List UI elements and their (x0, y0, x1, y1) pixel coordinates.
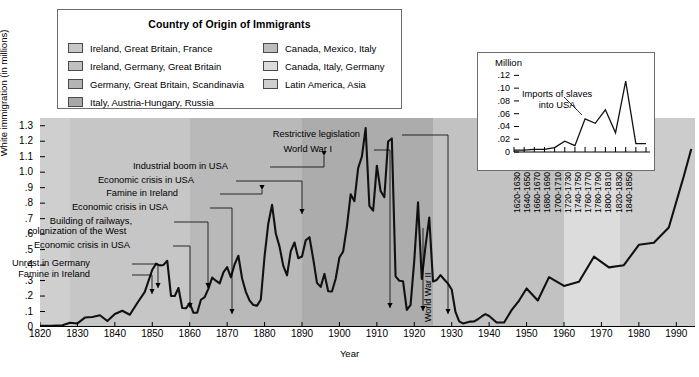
x-axis-tick-label: 1890 (291, 329, 313, 339)
inset-x-axis-tick-label: 1740-1750 (573, 172, 583, 213)
annotation-restrictive-legislation: Restrictive legislation (236, 129, 360, 140)
inset-x-axis-tick-label: 1720-1730 (563, 172, 573, 213)
x-axis-tick-label: 1920 (403, 329, 425, 339)
x-axis-tick-label: 1960 (553, 329, 575, 339)
y-axis-tick-label: .1 (25, 307, 33, 317)
legend-item-label: Ireland, Great Britain, France (90, 43, 213, 54)
annotation-leader-line (220, 190, 262, 194)
x-axis-tick-label: 1850 (141, 329, 163, 339)
x-axis-tick-label: 1970 (590, 329, 612, 339)
x-axis-tick-label: 1830 (66, 329, 88, 339)
x-axis-tick-label: 1950 (515, 329, 537, 339)
x-axis-tick-label: 1990 (665, 329, 687, 339)
y-axis-tick-label: .2 (25, 291, 33, 301)
legend-item-label: Canada, Mexico, Italy (285, 43, 376, 54)
annotation-economic-crisis-usa-2: Economic crisis in USA (28, 202, 168, 213)
x-axis-tick-label: 1940 (478, 329, 500, 339)
annotation-economic-crisis-usa-3: Economic crisis in USA (52, 175, 194, 186)
inset-x-axis-tick-label: 1620-1630 (512, 172, 522, 213)
legend-item: Latin America, Asia (263, 75, 398, 93)
slave-imports-line (514, 81, 646, 150)
x-axis-tick-label: 1840 (104, 329, 126, 339)
y-axis-tick-label: 1.3 (19, 121, 33, 131)
annotation-famine-in-ireland-1: Famine in Ireland (0, 269, 90, 280)
x-axis-tick-label: 1870 (216, 329, 238, 339)
annotation-arrow (149, 289, 154, 294)
legend-swatch (263, 79, 278, 89)
annotation-world-war-ii: World War II (423, 272, 433, 322)
legend-item-label: Ireland, Germany, Great Britain (90, 61, 221, 72)
x-axis-tick-label: 1900 (328, 329, 350, 339)
legend-item-label: Germany, Great Britain, Scandinavia (90, 79, 244, 90)
annotation-arrow (155, 283, 160, 288)
legend-item-label: Canada, Italy, Germany (285, 61, 385, 72)
annotation-building-of-railways: Building of railways, (20, 216, 132, 227)
inset-x-axis-tick-label: 1700-1710 (553, 172, 563, 213)
x-axis-tick-label: 1910 (366, 329, 388, 339)
legend-swatch (263, 43, 278, 53)
y-axis-tick-label: 1.2 (19, 136, 33, 146)
annotation-leader-line (236, 181, 302, 214)
legend-box: Country of Origin of Immigrants Ireland,… (57, 9, 402, 109)
legend-item-label: Latin America, Asia (285, 79, 366, 90)
annotation-arrow (299, 209, 304, 214)
inset-chart-slave-imports: Million Imports of slaves into USA 0.02.… (477, 52, 655, 171)
annotation-unrest-in-germany: Unrest in Germany (0, 258, 90, 269)
legend-item: Canada, Mexico, Italy (263, 39, 398, 57)
legend-swatch (68, 79, 83, 89)
x-axis-ticks: 1820183018401850186018701880189019001910… (40, 329, 695, 345)
legend-column-right: Canada, Mexico, ItalyCanada, Italy, Germ… (263, 39, 398, 93)
annotation-arrow (259, 185, 264, 190)
legend-swatch (68, 61, 83, 71)
x-axis-tick-label: 1860 (179, 329, 201, 339)
y-axis-tick-label: .9 (25, 183, 33, 193)
x-axis-tick-label: 1930 (441, 329, 463, 339)
legend-item: Italy, Austria-Hungary, Russia (68, 93, 268, 111)
annotation-arrow (387, 303, 392, 308)
inset-annotation-leader-line (564, 97, 582, 115)
inset-x-axis-tick-label: 1820-1830 (614, 172, 624, 213)
x-axis-tick-label: 1980 (628, 329, 650, 339)
annotation-industrial-boom-usa: Industrial boom in USA (88, 161, 228, 172)
annotation-world-war-i: World War I (256, 144, 332, 155)
legend-swatch (68, 97, 83, 107)
legend-title: Country of Origin of Immigrants (58, 18, 401, 30)
x-axis-tick-label: 1820 (29, 329, 51, 339)
inset-x-axis-tick-label: 1800-1810 (603, 172, 613, 213)
legend-item: Canada, Italy, Germany (263, 57, 398, 75)
annotation-leader-line (174, 222, 208, 288)
inset-line-series (478, 53, 654, 170)
y-axis-tick-label: 1.0 (19, 167, 33, 177)
annotation-economic-crisis-usa-1: Economic crisis in USA (0, 240, 130, 251)
inset-x-axis-tick-label: 1680-1690 (542, 172, 552, 213)
inset-x-axis-tick-label: 1660-1670 (532, 172, 542, 213)
annotation-leader-line (210, 208, 232, 314)
legend-swatch (68, 43, 83, 53)
annotation-arrow (445, 309, 450, 314)
annotation-famine-in-ireland-2: Famine in Ireland (82, 188, 178, 199)
inset-x-axis-tick-label: 1640-1650 (522, 172, 532, 213)
annotation-colonization-of-the-west: colonization of the West (18, 226, 136, 237)
legend-item: Ireland, Great Britain, France (68, 39, 268, 57)
annotation-arrow (229, 309, 234, 314)
legend-item-label: Italy, Austria-Hungary, Russia (90, 97, 214, 108)
inset-x-axis-tick-label: 1780-1790 (593, 172, 603, 213)
y-axis-tick-label: 1.1 (19, 152, 33, 162)
x-axis-tick-label: 1880 (253, 329, 275, 339)
inset-x-axis-labels: 1620-16301640-16501660-16701680-16901700… (477, 172, 655, 220)
x-axis-title: Year (0, 348, 699, 359)
legend-item: Ireland, Germany, Great Britain (68, 57, 268, 75)
y-axis-title: White immigration (in millions) (0, 28, 9, 158)
annotation-leader-line (270, 156, 324, 167)
legend-column-left: Ireland, Great Britain, FranceIreland, G… (68, 39, 268, 111)
inset-x-axis-tick-label: 1840-1850 (624, 172, 634, 213)
inset-x-axis-tick-label: 1760-1770 (583, 172, 593, 213)
legend-item: Germany, Great Britain, Scandinavia (68, 75, 268, 93)
legend-swatch (263, 61, 278, 71)
